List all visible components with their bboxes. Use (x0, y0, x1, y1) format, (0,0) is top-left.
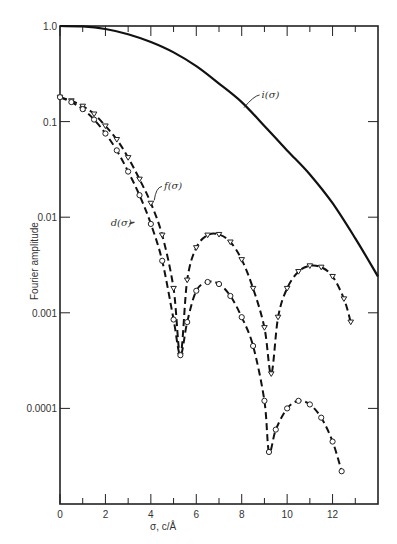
x-axis-title: σ, c/Å (150, 520, 177, 532)
plot-series (57, 26, 378, 474)
marker-circle (307, 402, 312, 407)
marker-triangle (91, 112, 97, 117)
marker-circle (266, 449, 271, 454)
marker-triangle (216, 232, 222, 237)
marker-circle (339, 469, 344, 474)
curve-label: f(σ) (163, 180, 182, 191)
marker-triangle (341, 297, 347, 302)
marker-circle (194, 288, 199, 293)
y-tick-label: 1.0 (43, 21, 57, 32)
series-i-line (60, 26, 378, 277)
marker-triangle (148, 201, 154, 206)
marker-triangle (268, 372, 274, 377)
marker-circle (330, 439, 335, 444)
marker-circle (273, 427, 278, 432)
marker-circle (250, 343, 255, 348)
marker-circle (160, 258, 165, 263)
marker-circle (69, 99, 74, 104)
marker-triangle (348, 320, 354, 325)
marker-circle (185, 319, 190, 324)
x-tick-label: 0 (57, 509, 63, 520)
marker-triangle (262, 326, 268, 331)
marker-circle (205, 279, 210, 284)
marker-circle (296, 398, 301, 403)
y-axis-title: Fourier amplitude (29, 222, 40, 300)
curve-annotations: i(σ)f(σ)d(σ) (111, 89, 280, 228)
marker-triangle (275, 315, 281, 320)
marker-triangle (307, 264, 313, 269)
marker-triangle (159, 233, 165, 238)
marker-triangle (193, 246, 199, 251)
marker-circle (57, 95, 62, 100)
series-d-line (60, 97, 342, 471)
marker-triangle (184, 278, 190, 283)
marker-circle (91, 117, 96, 122)
marker-circle (228, 293, 233, 298)
x-tick-label: 8 (239, 509, 245, 520)
curve-label: d(σ) (111, 217, 132, 228)
marker-triangle (250, 286, 256, 291)
series-f-line (60, 97, 351, 374)
marker-circle (114, 148, 119, 153)
marker-triangle (137, 177, 143, 182)
x-tick-label: 12 (327, 509, 339, 520)
plot-border (60, 26, 378, 504)
marker-triangle (125, 156, 131, 161)
marker-circle (285, 406, 290, 411)
x-tick-label: 4 (148, 509, 154, 520)
marker-triangle (114, 137, 120, 142)
marker-circle (171, 317, 176, 322)
fourier-amplitude-chart: 024681012 1.00.10.010.0010.0001 i(σ)f(σ)… (0, 0, 397, 544)
marker-circle (103, 131, 108, 136)
curve-label: i(σ) (262, 89, 280, 100)
y-tick-label: 0.0001 (26, 403, 57, 414)
marker-circle (126, 169, 131, 174)
marker-triangle (171, 286, 177, 291)
marker-circle (80, 107, 85, 112)
y-tick-label: 0.01 (38, 212, 58, 223)
marker-circle (148, 221, 153, 226)
x-tick-label: 6 (194, 509, 200, 520)
leader-line (154, 186, 162, 200)
y-axis: 1.00.10.010.0010.0001 (26, 21, 378, 414)
x-axis: 024681012 (57, 26, 355, 520)
marker-circle (239, 315, 244, 320)
marker-circle (137, 193, 142, 198)
y-tick-label: 0.001 (32, 308, 57, 319)
x-tick-label: 2 (103, 509, 109, 520)
marker-circle (216, 281, 221, 286)
marker-circle (178, 353, 183, 358)
x-tick-label: 10 (282, 509, 294, 520)
marker-circle (262, 398, 267, 403)
plot-frame (60, 26, 378, 504)
y-tick-label: 0.1 (43, 117, 57, 128)
marker-circle (319, 415, 324, 420)
